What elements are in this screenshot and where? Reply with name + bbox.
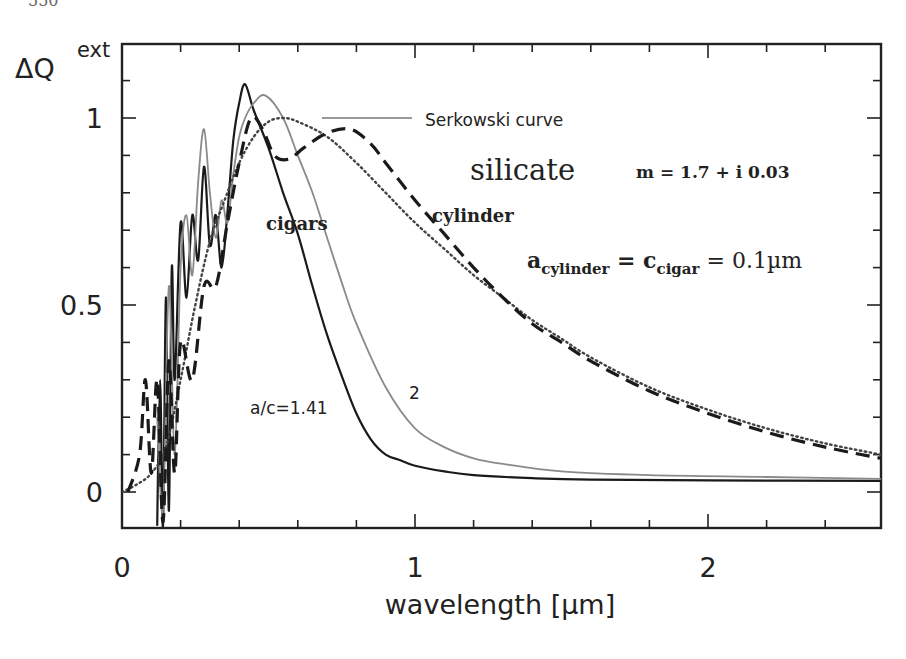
y-axis-label: ΔQ ext — [15, 38, 110, 84]
annotation-cylinder: cylinder — [432, 205, 514, 226]
tick-labels: 01200.51 — [60, 103, 717, 583]
annotation-cigars: cigars — [266, 213, 328, 234]
x-tick-label: 1 — [406, 552, 423, 583]
series-layer — [122, 84, 881, 526]
y-axis-label-main: ΔQ — [15, 53, 55, 84]
y-tick-label: 0 — [86, 477, 103, 508]
series-cigar-a-c-1-41 — [157, 84, 881, 526]
x-axis-label: wavelength [µm] — [385, 589, 615, 620]
annotation-silicate: silicate — [470, 153, 575, 187]
size-a: a — [527, 247, 541, 273]
size-c: = c — [609, 247, 656, 273]
size-sub-cigar: cigar — [657, 260, 701, 278]
annotation-serkowski: Serkowski curve — [425, 110, 563, 130]
annotation-refractive-index: m = 1.7 + i 0.03 — [636, 162, 790, 182]
y-axis-label-superscript: ext — [77, 38, 110, 62]
size-value: = 0.1µm — [699, 248, 802, 273]
x-tick-label: 0 — [113, 552, 130, 583]
size-sub-cylinder: cylinder — [541, 260, 610, 278]
y-tick-label: 0.5 — [60, 290, 103, 321]
annotation-size-relation: acylinder = ccigar = 0.1µm — [527, 247, 802, 278]
annotation-ratio-141: a/c=1.41 — [250, 398, 328, 418]
x-tick-label: 2 — [699, 552, 716, 583]
annotation-ratio-2: 2 — [409, 383, 420, 403]
chart: 01200.51 wavelength [µm] ΔQ ext Serkowsk… — [0, 0, 906, 659]
y-tick-label: 1 — [86, 103, 103, 134]
